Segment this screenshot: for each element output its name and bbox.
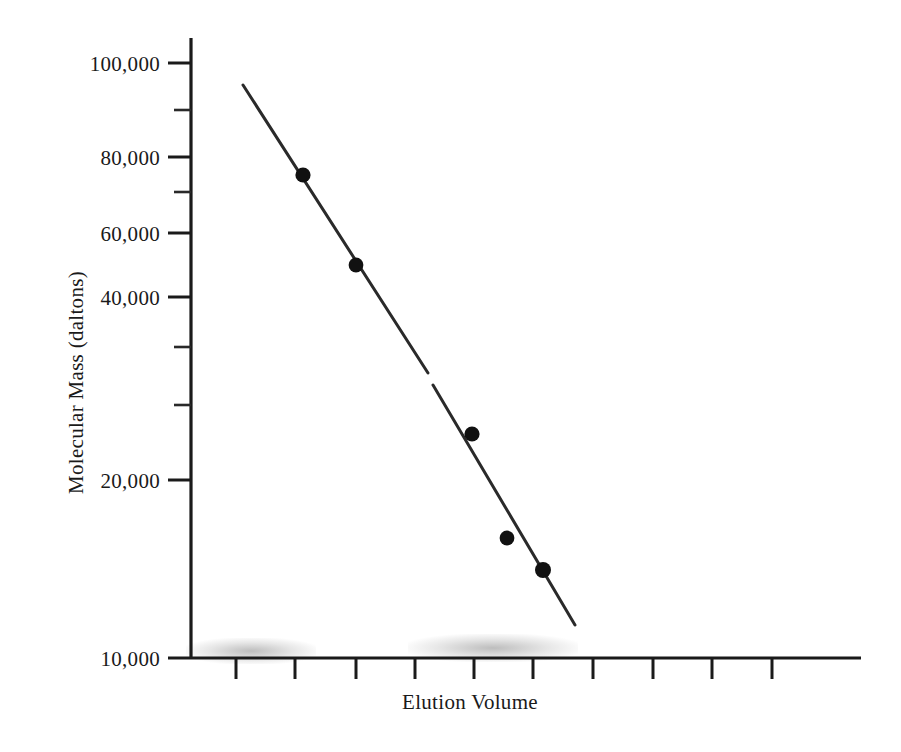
y-axis-title: Molecular Mass (daltons) <box>64 243 89 523</box>
y-tick-label-80000: 80,000 <box>0 146 160 171</box>
data-point <box>349 258 364 273</box>
y-tick-label-10000: 10,000 <box>0 647 160 672</box>
chart-figure: 100,000 80,000 60,000 40,000 20,000 10,0… <box>0 0 901 752</box>
fit-line <box>243 85 575 625</box>
plot-area <box>0 0 901 752</box>
data-point <box>535 562 551 578</box>
data-point <box>500 531 515 546</box>
y-minor-ticks <box>174 110 191 405</box>
y-tick-label-100000: 100,000 <box>0 52 160 77</box>
x-axis-ticks <box>236 658 772 679</box>
data-point <box>295 167 310 182</box>
y-major-ticks <box>168 63 191 658</box>
x-axis-title: Elution Volume <box>330 690 610 715</box>
data-point <box>464 426 479 441</box>
